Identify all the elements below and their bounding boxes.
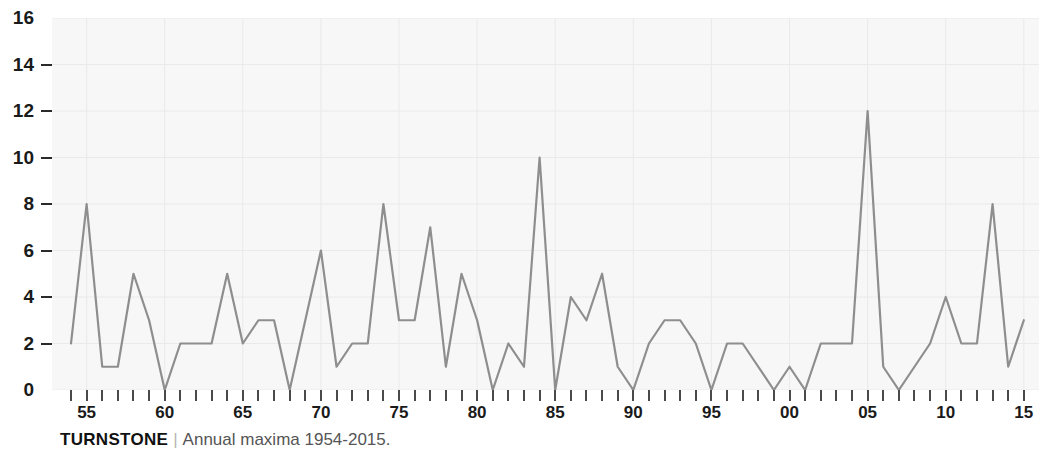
line-chart-svg	[52, 18, 1039, 390]
y-axis: 0246810121416	[0, 0, 52, 400]
x-axis-tick-label: 60	[155, 403, 174, 423]
chart-caption: TURNSTONE|Annual maxima 1954-2015.	[60, 430, 391, 450]
y-axis-tick-dash	[41, 64, 52, 66]
y-axis-tick-label: 16	[13, 9, 34, 27]
x-axis-tick	[336, 390, 338, 401]
y-axis-tick-dash	[41, 17, 52, 19]
x-axis-tick	[492, 390, 494, 401]
y-axis-tick-dash	[41, 343, 52, 345]
x-axis-tick	[414, 390, 416, 401]
x-axis-tick	[70, 390, 72, 401]
x-axis-tick-label: 05	[858, 403, 877, 423]
x-axis-tick	[726, 390, 728, 401]
plot-area	[52, 18, 1039, 390]
x-axis-tick-label: 80	[468, 403, 487, 423]
x-axis-tick	[867, 390, 869, 401]
x-axis-tick	[679, 390, 681, 401]
caption-title: TURNSTONE	[60, 430, 168, 449]
x-axis-tick	[320, 390, 322, 401]
x-axis-tick	[585, 390, 587, 401]
x-axis-tick	[367, 390, 369, 401]
x-axis-tick	[804, 390, 806, 401]
x-axis-tick	[757, 390, 759, 401]
x-axis-tick	[960, 390, 962, 401]
y-axis-tick: 10	[13, 149, 52, 167]
y-axis-tick-label: 0	[23, 381, 34, 399]
y-axis-tick-dash	[41, 110, 52, 112]
gridlines	[52, 18, 1039, 390]
x-axis-tick	[242, 390, 244, 401]
x-axis-tick	[117, 390, 119, 401]
x-axis-tick	[882, 390, 884, 401]
x-axis-tick	[945, 390, 947, 401]
x-axis-tick	[398, 390, 400, 401]
x-axis-tick	[523, 390, 525, 401]
y-axis-tick-dash	[41, 296, 52, 298]
caption-subtitle: Annual maxima 1954-2015.	[183, 430, 391, 449]
x-axis-tick	[664, 390, 666, 401]
chart-page: 0246810121416 55606570758085909500051015…	[0, 0, 1039, 462]
x-axis-tick	[445, 390, 447, 401]
x-axis-tick	[211, 390, 213, 401]
x-axis-tick	[101, 390, 103, 401]
x-axis-tick	[461, 390, 463, 401]
caption-separator: |	[168, 430, 182, 449]
x-axis-tick	[992, 390, 994, 401]
x-axis-tick-label: 85	[546, 403, 565, 423]
x-axis-tick	[1007, 390, 1009, 401]
x-axis-tick	[710, 390, 712, 401]
y-axis-tick-dash	[41, 157, 52, 159]
x-axis-tick	[476, 390, 478, 401]
x-axis-tick	[132, 390, 134, 401]
y-axis-tick: 2	[23, 335, 52, 353]
x-axis-tick	[648, 390, 650, 401]
x-axis-tick	[554, 390, 556, 401]
y-axis-tick: 6	[23, 242, 52, 260]
x-axis-tick	[273, 390, 275, 401]
x-axis-tick	[789, 390, 791, 401]
y-axis-tick-label: 14	[13, 56, 34, 74]
x-axis-tick	[164, 390, 166, 401]
y-axis-tick: 8	[23, 195, 52, 213]
y-axis-tick: 12	[13, 102, 52, 120]
x-axis-tick	[820, 390, 822, 401]
y-axis-tick-label: 10	[13, 149, 34, 167]
x-axis-tick-label: 95	[702, 403, 721, 423]
y-axis-tick: 16	[13, 9, 52, 27]
y-axis-tick: 14	[13, 56, 52, 74]
x-axis-tick	[86, 390, 88, 401]
y-axis-tick-label: 12	[13, 102, 34, 120]
x-axis-tick	[179, 390, 181, 401]
x-axis-tick-label: 90	[624, 403, 643, 423]
y-axis-tick-label: 4	[23, 288, 34, 306]
x-axis-tick	[601, 390, 603, 401]
x-axis-tick	[617, 390, 619, 401]
x-axis-tick	[539, 390, 541, 401]
x-axis-tick-label: 15	[1014, 403, 1033, 423]
y-axis-tick: 4	[23, 288, 52, 306]
x-axis-tick-label: 70	[311, 403, 330, 423]
x-axis-tick	[507, 390, 509, 401]
x-axis-tick	[913, 390, 915, 401]
y-axis-tick-label: 8	[23, 195, 34, 213]
y-axis-tick-dash	[41, 250, 52, 252]
x-axis-tick	[835, 390, 837, 401]
x-axis-tick	[257, 390, 259, 401]
x-axis-tick	[929, 390, 931, 401]
x-axis-tick	[976, 390, 978, 401]
x-axis-tick	[898, 390, 900, 401]
x-axis-tick	[851, 390, 853, 401]
y-axis-tick-dash	[41, 203, 52, 205]
x-axis-tick-label: 55	[77, 403, 96, 423]
x-axis-tick-label: 00	[780, 403, 799, 423]
x-axis: 55606570758085909500051015	[52, 390, 1039, 426]
x-axis-tick	[429, 390, 431, 401]
x-axis-tick	[1023, 390, 1025, 401]
x-axis-tick	[148, 390, 150, 401]
x-axis-tick	[382, 390, 384, 401]
x-axis-tick-label: 10	[936, 403, 955, 423]
x-axis-tick	[570, 390, 572, 401]
x-axis-tick	[695, 390, 697, 401]
x-axis-tick-label: 65	[233, 403, 252, 423]
x-axis-tick-label: 75	[390, 403, 409, 423]
